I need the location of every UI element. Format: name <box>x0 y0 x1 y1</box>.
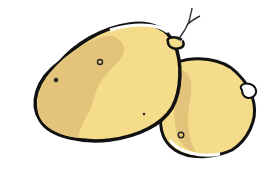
eye-dot <box>54 78 58 82</box>
eye-dot <box>143 113 145 115</box>
sprout <box>178 8 200 40</box>
potatoes-drawing <box>0 0 277 172</box>
